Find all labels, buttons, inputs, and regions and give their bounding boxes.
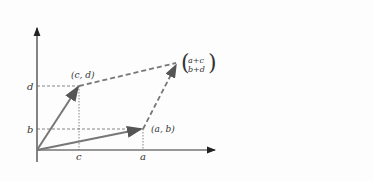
vector-addition-diagram: d b c a (c, d) (a, b) ( a+c b+d ) bbox=[0, 0, 373, 182]
point-label-ab: (a, b) bbox=[151, 124, 175, 134]
sum-bottom: b+d bbox=[188, 65, 205, 74]
diagram-svg: d b c a (c, d) (a, b) ( a+c b+d ) bbox=[0, 0, 373, 182]
sum-paren-right: ) bbox=[208, 50, 217, 75]
sum-top: a+c bbox=[188, 56, 204, 65]
tick-label-b: b bbox=[27, 124, 33, 135]
point-label-cd: (c, d) bbox=[71, 70, 95, 80]
tick-label-c: c bbox=[76, 151, 82, 162]
tick-label-a: a bbox=[140, 151, 146, 162]
vector-cd bbox=[37, 87, 78, 150]
tick-label-d: d bbox=[27, 81, 33, 92]
dashed-ab-to-sum bbox=[143, 65, 176, 129]
vector-ab bbox=[37, 129, 141, 150]
